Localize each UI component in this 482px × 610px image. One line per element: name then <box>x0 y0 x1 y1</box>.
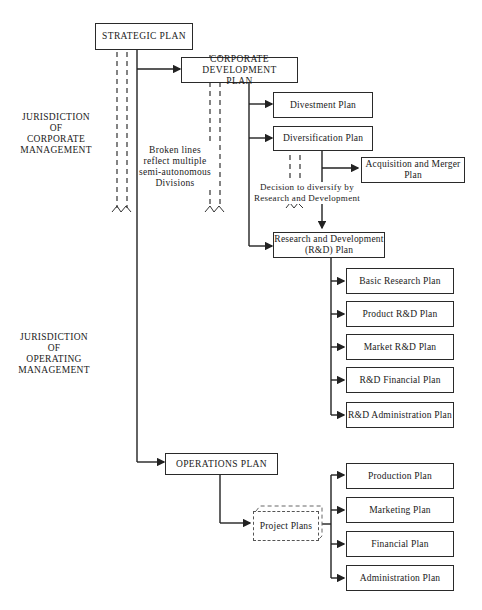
corporate-development-label-2: PLAN <box>226 76 252 87</box>
rd-label-1: Research and Development <box>274 234 383 245</box>
product-rd-label: Product R&D Plan <box>363 309 438 320</box>
rd-label-2: (R&D) Plan <box>305 245 353 256</box>
product-rd-plan-box: Product R&D Plan <box>346 301 454 327</box>
corp-jur-line-3: CORPORATE <box>18 134 94 145</box>
rd-plan-box: Research and Development (R&D) Plan <box>273 232 385 258</box>
operations-plan-label: OPERATIONS PLAN <box>176 459 267 470</box>
operations-plan-box: OPERATIONS PLAN <box>165 453 278 475</box>
decision-line-2: Research and Development <box>254 193 360 204</box>
divestment-plan-box: Divestment Plan <box>273 92 373 118</box>
marketing-plan-label: Marketing Plan <box>369 505 431 516</box>
basic-research-plan-box: Basic Research Plan <box>346 268 454 294</box>
marketing-plan-box: Marketing Plan <box>346 497 454 523</box>
diversification-plan-box: Diversification Plan <box>273 126 373 151</box>
strategic-plan-label: STRATEGIC PLAN <box>102 31 186 42</box>
financial-plan-label: Financial Plan <box>371 539 428 550</box>
broken-lines-line-2: reflect multiple <box>138 156 212 167</box>
broken-lines-line-4: Divisions <box>138 178 212 189</box>
administration-plan-box: Administration Plan <box>346 565 454 591</box>
administration-plan-label: Administration Plan <box>360 573 441 584</box>
rd-financial-plan-box: R&D Financial Plan <box>346 367 454 393</box>
project-plans-label: Project Plans <box>260 521 312 532</box>
rd-administration-label: R&D Administration Plan <box>348 410 452 421</box>
corporate-jurisdiction-label: JURISDICTION OF CORPORATE MANAGEMENT <box>18 112 94 156</box>
corp-jur-line-4: MANAGEMENT <box>18 145 94 156</box>
production-plan-label: Production Plan <box>368 471 432 482</box>
acquisition-merger-plan-box: Acquisition and Merger Plan <box>361 157 465 183</box>
corp-jur-line-1: JURISDICTION <box>18 112 94 123</box>
rd-financial-label: R&D Financial Plan <box>359 375 440 386</box>
op-jur-line-2: OF <box>16 343 92 354</box>
strategic-plan-box: STRATEGIC PLAN <box>95 23 193 50</box>
op-jur-line-1: JURISDICTION <box>16 332 92 343</box>
decision-note: Decision to diversify by Research and De… <box>252 182 362 204</box>
market-rd-plan-box: Market R&D Plan <box>346 334 454 360</box>
basic-research-label: Basic Research Plan <box>359 276 440 287</box>
corporate-development-label-1: CORPORATE DEVELOPMENT <box>182 54 297 76</box>
acquisition-label-2: Plan <box>404 170 422 181</box>
broken-lines-line-1: Broken lines <box>138 145 212 156</box>
production-plan-box: Production Plan <box>346 463 454 489</box>
divestment-plan-label: Divestment Plan <box>290 100 356 111</box>
op-jur-line-4: MANAGEMENT <box>16 365 92 376</box>
corporate-development-plan-box: CORPORATE DEVELOPMENT PLAN <box>181 57 298 83</box>
project-plans-box: Project Plans <box>253 511 319 541</box>
financial-plan-box: Financial Plan <box>346 531 454 557</box>
broken-lines-note: Broken lines reflect multiple semi-auton… <box>138 145 212 189</box>
corp-jur-line-2: OF <box>18 123 94 134</box>
market-rd-label: Market R&D Plan <box>364 342 437 353</box>
operating-jurisdiction-label: JURISDICTION OF OPERATING MANAGEMENT <box>16 332 92 376</box>
diversification-plan-label: Diversification Plan <box>283 133 363 144</box>
op-jur-line-3: OPERATING <box>16 354 92 365</box>
rd-administration-plan-box: R&D Administration Plan <box>346 402 454 428</box>
acquisition-label-1: Acquisition and Merger <box>366 159 461 170</box>
decision-line-1: Decision to diversify by <box>260 182 354 193</box>
broken-lines-line-3: semi-autonomous <box>138 167 212 178</box>
